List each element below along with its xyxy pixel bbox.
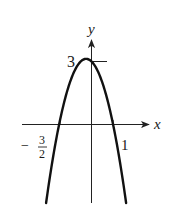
x-axis-label: x <box>153 116 161 132</box>
parabola-chart: y x 3 1 − 3 2 <box>0 0 174 209</box>
right-zero-label: 1 <box>121 137 129 153</box>
y-intercept-label: 3 <box>67 53 75 70</box>
left-zero-sign: − <box>21 138 29 153</box>
parabola-curve <box>46 59 126 203</box>
left-zero-numerator: 3 <box>39 133 45 147</box>
y-axis-label: y <box>86 21 95 37</box>
left-zero-denominator: 2 <box>39 147 45 161</box>
left-zero-label: − 3 2 <box>21 133 47 161</box>
